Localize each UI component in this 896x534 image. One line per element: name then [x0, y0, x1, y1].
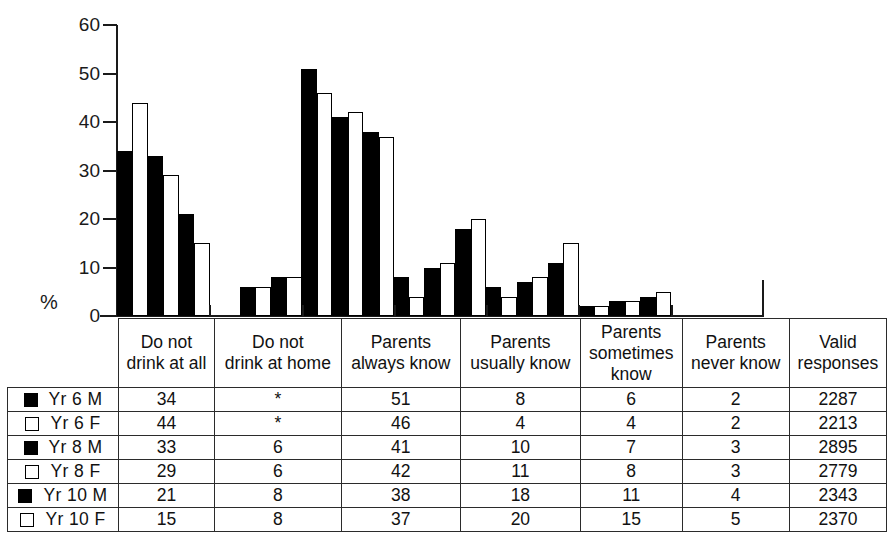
legend-label: Yr 8 F [50, 461, 100, 481]
table-cell: * [214, 388, 341, 412]
y-axis-tick-label: 30 [60, 161, 100, 180]
legend-label: Yr 10 M [43, 485, 107, 505]
bar [317, 93, 333, 316]
table-cell: 4 [460, 412, 580, 436]
bar-group [302, 25, 394, 316]
table-cell: 2287 [789, 388, 886, 412]
table-row: Yr 10 F15837201552370 [8, 508, 887, 532]
header-line: Do not [215, 332, 341, 353]
bar [117, 151, 133, 316]
table-header: Do notdrink at allDo notdrink at homePar… [8, 319, 887, 388]
table-cell: * [214, 412, 341, 436]
table-cell: 8 [214, 484, 341, 508]
bar [640, 297, 656, 316]
bar [471, 219, 487, 316]
legend-label: Yr 6 F [50, 413, 100, 433]
table-cell: 4 [580, 412, 682, 436]
group-separator-tick [394, 305, 396, 317]
bar [363, 132, 379, 316]
table-row: Yr 8 F2964211832779 [8, 460, 887, 484]
table-cell: 44 [119, 412, 215, 436]
y-axis-tick-label: 50 [60, 64, 100, 83]
legend-swatch-hollow-icon [25, 417, 39, 431]
data-table: Do notdrink at allDo notdrink at homePar… [7, 318, 887, 532]
table-row: Yr 6 F44*464422213 [8, 412, 887, 436]
header-line: Do not [119, 332, 214, 353]
bar [179, 214, 195, 316]
bar-group [578, 25, 670, 316]
header-line: usually know [461, 353, 580, 374]
bar [563, 243, 579, 316]
bar-group [117, 25, 209, 316]
table-header-row: Do notdrink at allDo notdrink at homePar… [8, 319, 887, 388]
bar [409, 297, 425, 316]
table-cell: 46 [341, 412, 460, 436]
bar [163, 175, 179, 316]
legend-swatch-filled-icon [24, 441, 38, 455]
table-cell: 11 [460, 460, 580, 484]
table-cell: 3 [682, 436, 789, 460]
table-cell: 15 [580, 508, 682, 532]
group-separator-tick [671, 305, 673, 317]
bar [548, 263, 564, 316]
y-axis-tick [103, 24, 117, 26]
group-separator-tick [302, 305, 304, 317]
table-cell: 2 [682, 412, 789, 436]
legend-cell: Yr 6 M [8, 388, 119, 412]
table-cell: 6 [214, 436, 341, 460]
bar-group [209, 25, 301, 316]
table-cell: 51 [341, 388, 460, 412]
bar-group [486, 25, 578, 316]
bar [440, 263, 456, 316]
table-column-header: Validresponses [789, 319, 886, 388]
table-cell: 8 [460, 388, 580, 412]
table-cell: 10 [460, 436, 580, 460]
y-axis-tick [103, 218, 117, 220]
y-axis-label: % [40, 292, 58, 312]
table-cell: 2895 [789, 436, 886, 460]
table-cell: 2 [682, 388, 789, 412]
legend-label: Yr 8 M [49, 437, 103, 457]
legend-cell: Yr 10 M [8, 484, 119, 508]
bar [148, 156, 164, 316]
header-line: sometimes [581, 343, 682, 364]
y-axis-tick-label: 40 [60, 112, 100, 131]
table-row: Yr 8 M3364110732895 [8, 436, 887, 460]
table-cell: 11 [580, 484, 682, 508]
table-cell: 33 [119, 436, 215, 460]
table-cell: 21 [119, 484, 215, 508]
table-cell: 5 [682, 508, 789, 532]
bar [271, 277, 287, 316]
y-axis-tick-labels: 0102030405060 [55, 0, 100, 320]
bar [255, 287, 271, 316]
table-corner-cell [8, 319, 119, 388]
legend-swatch-hollow-icon [20, 513, 34, 527]
bar [332, 117, 348, 316]
header-line: Parents [683, 332, 789, 353]
header-line: Parents [461, 332, 580, 353]
bar [625, 301, 641, 316]
bar [194, 243, 210, 316]
header-line: responses [790, 353, 886, 374]
y-axis-tick [103, 170, 117, 172]
table-cell: 2370 [789, 508, 886, 532]
table-column-header: Parentsusually know [460, 319, 580, 388]
legend-label: Yr 10 F [45, 509, 105, 529]
legend-swatch-hollow-icon [25, 465, 39, 479]
table-cell: 4 [682, 484, 789, 508]
y-axis-tick [103, 121, 117, 123]
y-axis-tick-label: 60 [60, 15, 100, 34]
bar [656, 292, 672, 316]
header-line: never know [683, 353, 789, 374]
table-cell: 2213 [789, 412, 886, 436]
table-cell: 6 [580, 388, 682, 412]
table-cell: 42 [341, 460, 460, 484]
bar [132, 103, 148, 316]
bar [379, 137, 395, 316]
table-column-header: Parentsalways know [341, 319, 460, 388]
table-column-header: Parentssometimesknow [580, 319, 682, 388]
bar [501, 297, 517, 316]
table-column-header: Do notdrink at all [119, 319, 215, 388]
y-axis-tick [103, 315, 117, 317]
header-line: Parents [581, 322, 682, 343]
